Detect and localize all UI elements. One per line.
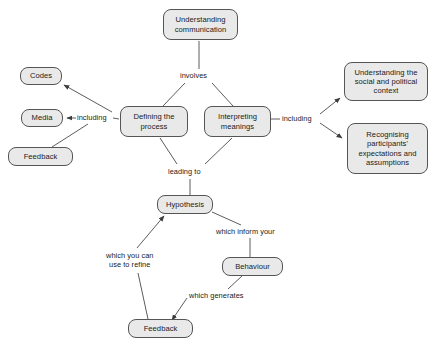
node-recognising-participants-expectations[interactable]: Recognising participants' expectations a…: [347, 123, 428, 174]
node-label: Interpreting meanings: [208, 112, 267, 130]
node-hypothesis[interactable]: Hypothesis: [157, 195, 213, 214]
node-label: Codes: [24, 71, 58, 80]
edge-feedback-to-which-you-can-use: [138, 273, 148, 319]
edge-which-generates-to-feedback: [172, 298, 187, 320]
node-understanding-communication[interactable]: Understanding communication: [163, 9, 238, 40]
edge-which-you-can-use-to-hypothesis: [137, 216, 164, 248]
edge-hypothesis-to-which-inform: [212, 212, 241, 225]
edge-label-leading-to: leading to: [168, 167, 201, 176]
edge-label-including-left: including: [77, 113, 107, 122]
edge-including-left-to-codes: [64, 85, 112, 112]
edge-behaviour-to-which-generates: [228, 276, 242, 289]
edge-defining-to-leading-to: [160, 138, 177, 164]
edge-label-which-generates: which generates: [189, 291, 244, 300]
edge-interpreting-to-leading-to: [205, 138, 232, 164]
edge-including-right-to-context: [320, 98, 340, 114]
node-label: Feedback: [12, 152, 69, 161]
edge-label-including-right: including: [282, 114, 312, 123]
node-label: Understanding communication: [167, 15, 234, 33]
node-label: Understanding the social and political c…: [348, 68, 424, 96]
edge-label-involves: involves: [180, 71, 207, 80]
node-label: Media: [25, 113, 59, 122]
edge-label-which-inform-your: which inform your: [216, 227, 275, 236]
node-label: Feedback: [132, 324, 189, 333]
node-interpreting-meanings[interactable]: Interpreting meanings: [204, 106, 271, 137]
node-feedback-left[interactable]: Feedback: [8, 147, 73, 166]
edge-involves-to-defining: [163, 83, 185, 106]
node-label: Recognising participants' expectations a…: [351, 130, 424, 167]
node-defining-the-process[interactable]: Defining the process: [120, 106, 188, 137]
edge-defining-to-including-left: [113, 118, 119, 119]
node-media[interactable]: Media: [21, 109, 63, 127]
node-behaviour[interactable]: Behaviour: [222, 257, 283, 276]
node-codes[interactable]: Codes: [20, 67, 62, 85]
node-label: Defining the process: [124, 112, 184, 130]
node-feedback-bottom[interactable]: Feedback: [128, 319, 193, 338]
edge-including-left-to-feedback: [52, 124, 88, 147]
edge-involves-to-interpreting: [212, 83, 233, 106]
edge-label-which-you-can-use-to-refine: which you can use to refine: [106, 251, 153, 269]
concept-map-canvas: Understanding communicationCodesMediaFee…: [0, 0, 433, 345]
node-understanding-social-political-context[interactable]: Understanding the social and political c…: [344, 62, 428, 101]
edge-including-right-to-recognising: [320, 123, 342, 138]
node-label: Hypothesis: [161, 200, 209, 209]
node-label: Behaviour: [226, 262, 279, 271]
